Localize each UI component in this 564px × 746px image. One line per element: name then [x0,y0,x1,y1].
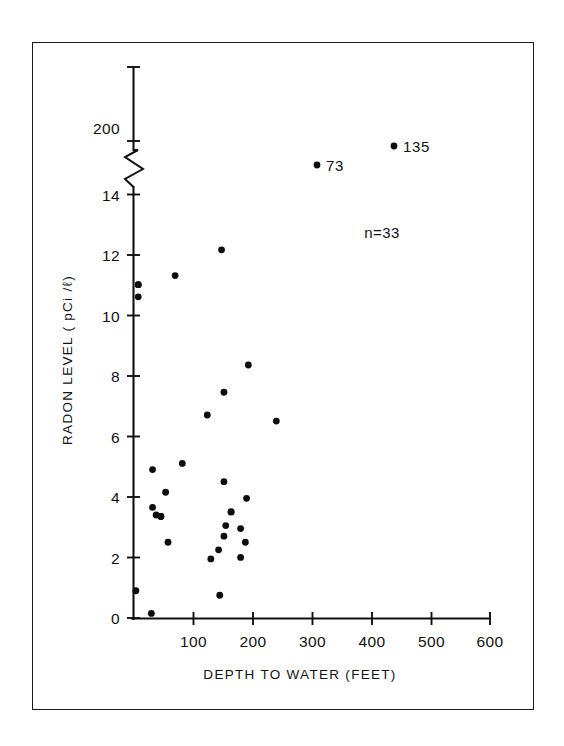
x-ticklabel-600: 600 [476,633,503,650]
outlier-label-135: 135 [403,138,430,155]
data-point [149,504,156,511]
data-point [237,554,244,561]
y-axis [125,67,143,619]
data-point [215,546,222,553]
y-ticklabel-200: 200 [93,120,120,137]
y-ticklabel-14: 14 [102,187,120,204]
data-point [228,509,235,516]
figure-container: 0 2 4 6 8 10 12 14 200 100 200 300 400 5… [0,0,564,746]
data-point [162,489,169,496]
data-point [273,418,280,425]
x-ticklabel-200: 200 [239,633,266,650]
data-point [314,162,321,169]
y-ticklabel-8: 8 [111,368,120,385]
x-axis-title: DEPTH TO WATER (FEET) [203,667,396,682]
data-point [157,513,164,520]
x-ticklabel-500: 500 [418,633,445,650]
data-point [148,610,155,617]
y-ticklabel-10: 10 [102,308,120,325]
data-point [207,556,214,563]
data-point [216,592,223,599]
data-point [222,522,229,529]
axis-break-icon [125,150,143,187]
data-point [132,587,139,594]
y-ticklabel-4: 4 [111,489,120,506]
sample-size-annotation: n=33 [364,224,399,241]
y-ticklabel-12: 12 [102,247,120,264]
y-ticklabel-0: 0 [111,610,120,627]
data-point [218,246,225,253]
data-point [221,478,228,485]
data-point [135,281,142,288]
x-ticklabel-400: 400 [358,633,385,650]
data-point [221,533,228,540]
scatter-points-layer [132,246,279,616]
data-point [165,539,172,546]
data-point [243,495,250,502]
data-point [391,143,398,150]
data-point [245,362,252,369]
x-ticklabel-100: 100 [180,633,207,650]
data-point [149,466,156,473]
outlier-point-73: 73 [314,157,344,174]
data-point [237,525,244,532]
outlier-point-135: 135 [391,138,430,155]
data-point [172,272,179,279]
y-axis-title: RADON LEVEL ( pCi /ℓ) [60,275,75,445]
scatter-plot: 0 2 4 6 8 10 12 14 200 100 200 300 400 5… [0,0,564,746]
y-ticklabel-2: 2 [111,550,120,567]
x-ticklabel-300: 300 [299,633,326,650]
data-point [179,460,186,467]
data-point [221,389,228,396]
outlier-label-73: 73 [326,157,344,174]
data-point [204,412,211,419]
data-point [135,293,142,300]
data-point [242,539,249,546]
y-ticklabel-6: 6 [111,429,120,446]
